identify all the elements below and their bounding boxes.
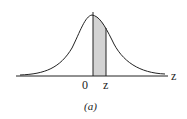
tick-z-label: z [103,78,108,92]
figure-caption: (a) [84,100,97,113]
normal-curve-diagram: z 0 z (a) [0,0,187,119]
tick-zero-label: 0 [82,78,88,92]
axis-label: z [171,69,176,83]
